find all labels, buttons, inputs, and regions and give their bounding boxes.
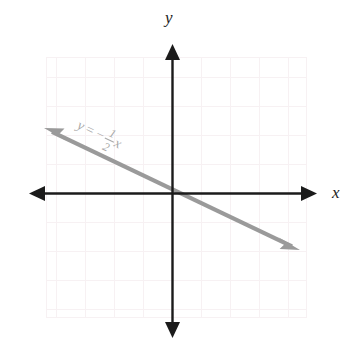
y-axis-label: y [165, 9, 173, 26]
graph-canvas [0, 0, 356, 344]
y-axis-arrowhead-down [165, 322, 180, 338]
x-axis-label: x [332, 184, 340, 201]
coordinate-plane-figure: y x y = − 1 2 x [0, 0, 356, 344]
axes [29, 44, 317, 338]
line-arrowhead-upper-left [44, 128, 66, 140]
y-axis-arrowhead-up [165, 44, 180, 60]
x-axis-arrowhead-right [301, 186, 317, 201]
x-axis-arrowhead-left [29, 186, 45, 201]
grid-lines [46, 57, 307, 318]
